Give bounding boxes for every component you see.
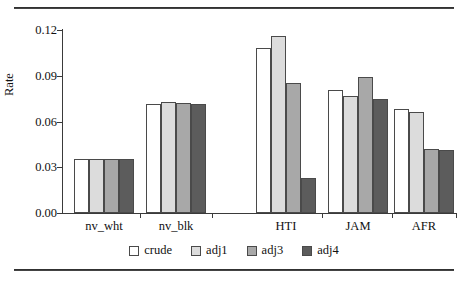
bar-nv_wht-adj4 (119, 159, 134, 213)
bar-nv_wht-adj1 (89, 159, 104, 213)
x-category-label-AFR: AFR (374, 219, 468, 234)
legend-swatch-adj4 (302, 246, 312, 256)
x-tick-mark-4 (456, 213, 457, 218)
bar-nv_blk-crude (146, 104, 161, 213)
y-tick-label: 0.06 (35, 114, 57, 129)
bottom-divider-rule (14, 269, 454, 271)
y-tick-label: 0.09 (35, 68, 57, 83)
bar-group-nv_blk (146, 30, 206, 213)
legend-item-adj1[interactable]: adj1 (191, 243, 228, 258)
bar-group-AFR (394, 30, 454, 213)
x-tick-mark-3 (392, 213, 393, 218)
legend-swatch-adj3 (247, 246, 257, 256)
bar-JAM-adj3 (358, 77, 373, 213)
bar-group-HTI (256, 30, 316, 213)
bar-AFR-adj3 (424, 149, 439, 213)
legend-label: adj4 (317, 243, 339, 258)
bar-AFR-adj4 (439, 150, 454, 213)
bar-nv_wht-crude (74, 159, 89, 213)
bar-JAM-crude (328, 90, 343, 213)
bar-HTI-adj4 (301, 178, 316, 213)
x-axis-line (62, 213, 456, 214)
bar-nv_blk-adj4 (191, 104, 206, 213)
bar-group-nv_wht (74, 30, 134, 213)
figure-container: Rate 0.000.030.060.090.12 nv_whtnv_blkHT… (0, 0, 468, 281)
chart-legend: crudeadj1adj3adj4 (0, 243, 468, 258)
x-tick-mark-2 (322, 213, 323, 218)
bar-JAM-adj4 (373, 99, 388, 213)
bar-HTI-adj1 (271, 36, 286, 213)
bar-JAM-adj1 (343, 96, 358, 213)
y-tick-label: 0.12 (35, 23, 57, 38)
legend-label: crude (144, 243, 172, 258)
legend-swatch-adj1 (191, 246, 201, 256)
legend-swatch-crude (129, 246, 139, 256)
x-category-label-nv_blk: nv_blk (126, 219, 226, 234)
top-divider-rule (14, 7, 454, 9)
bar-group-JAM (328, 30, 388, 213)
legend-label: adj3 (262, 243, 284, 258)
bar-AFR-adj1 (409, 112, 424, 213)
bar-HTI-crude (256, 48, 271, 213)
legend-item-adj3[interactable]: adj3 (247, 243, 284, 258)
x-tick-mark-1 (212, 213, 213, 218)
y-tick-mark (57, 213, 62, 214)
bar-nv_wht-adj3 (104, 159, 119, 213)
bar-AFR-crude (394, 109, 409, 213)
plot-area (62, 30, 454, 213)
bar-nv_blk-adj1 (161, 102, 176, 213)
legend-label: adj1 (206, 243, 228, 258)
y-tick-label: 0.03 (35, 160, 57, 175)
bar-nv_blk-adj3 (176, 103, 191, 213)
x-tick-mark-0 (140, 213, 141, 218)
bar-HTI-adj3 (286, 83, 301, 213)
legend-item-adj4[interactable]: adj4 (302, 243, 339, 258)
legend-item-crude[interactable]: crude (129, 243, 172, 258)
y-axis-label: Rate (2, 73, 17, 96)
